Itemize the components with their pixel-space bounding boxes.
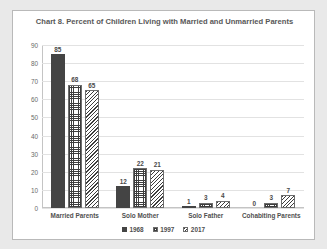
category-axis-label: Solo Father: [188, 212, 223, 219]
category-axis-label: Married Parents: [51, 212, 99, 219]
bar-group: 037Cohabiting Parents: [239, 45, 305, 208]
bar-slot: 3: [199, 45, 213, 208]
bar-slot: 65: [85, 45, 99, 208]
y-axis-tick-label: 70: [31, 78, 38, 85]
y-axis-tick-label: 60: [31, 96, 38, 103]
bar-group-bars: 122221: [108, 45, 174, 208]
legend-item[interactable]: 1997: [153, 226, 175, 233]
bar[interactable]: [264, 203, 278, 208]
bar-slot: 21: [150, 45, 164, 208]
bar-group-bars: 856865: [42, 45, 108, 208]
y-axis-tick-label: 10: [31, 186, 38, 193]
bar-value-label: 3: [269, 194, 273, 201]
bar-slot: 0: [247, 45, 261, 208]
y-axis-tick-label: 90: [31, 42, 38, 49]
bar-slot: 85: [51, 45, 65, 208]
category-axis-label: Cohabiting Parents: [242, 212, 301, 219]
legend-swatch-icon: [122, 227, 127, 232]
bar-slot: 68: [68, 45, 82, 208]
bar[interactable]: [150, 170, 164, 208]
legend-swatch-icon: [153, 227, 158, 232]
bar-value-label: 0: [252, 200, 256, 207]
bar-group-bars: 134: [173, 45, 239, 208]
bar-value-label: 3: [204, 194, 208, 201]
bar-value-label: 1: [187, 198, 191, 205]
bar-group: 856865Married Parents: [42, 45, 108, 208]
bar[interactable]: [182, 206, 196, 208]
bar-slot: 1: [182, 45, 196, 208]
y-axis-tick-label: 20: [31, 168, 38, 175]
bar[interactable]: [51, 54, 65, 208]
legend-item[interactable]: 1968: [122, 226, 144, 233]
legend-label: 1997: [160, 226, 174, 233]
bar-value-label: 21: [154, 161, 161, 168]
bar-value-label: 4: [221, 192, 225, 199]
bar-group-bars: 037: [239, 45, 305, 208]
legend-label: 1968: [129, 226, 143, 233]
bar-value-label: 85: [54, 46, 61, 53]
legend-label: 2017: [191, 226, 205, 233]
bar-value-label: 12: [120, 178, 127, 185]
legend-swatch-icon: [183, 227, 188, 232]
plot-area: 9080706050403020100 856865Married Parent…: [42, 45, 304, 208]
bar-value-label: 7: [286, 187, 290, 194]
y-axis-tick-label: 0: [34, 205, 38, 212]
bar-value-label: 65: [88, 82, 95, 89]
chart-title: Chart 8. Percent of Children Living with…: [29, 17, 300, 28]
chart-legend: 196819972017: [13, 226, 314, 233]
bar-group: 122221Solo Mother: [108, 45, 174, 208]
bar[interactable]: [68, 85, 82, 208]
bar[interactable]: [133, 168, 147, 208]
bar[interactable]: [116, 186, 130, 208]
bar-value-label: 68: [71, 76, 78, 83]
legend-item[interactable]: 2017: [183, 226, 205, 233]
bar[interactable]: [199, 203, 213, 208]
bar-slot: 12: [116, 45, 130, 208]
chart-card: Chart 8. Percent of Children Living with…: [12, 10, 315, 240]
y-axis-tick-label: 80: [31, 60, 38, 67]
bar-value-label: 22: [137, 160, 144, 167]
bar-slot: 22: [133, 45, 147, 208]
bar[interactable]: [281, 195, 295, 208]
y-axis-tick-label: 40: [31, 132, 38, 139]
bar-slot: 4: [216, 45, 230, 208]
y-axis-tick-label: 30: [31, 150, 38, 157]
gridline: [42, 208, 304, 209]
category-axis-label: Solo Mother: [122, 212, 159, 219]
bar-group: 134Solo Father: [173, 45, 239, 208]
bar[interactable]: [85, 90, 99, 208]
bar-slot: 3: [264, 45, 278, 208]
bar[interactable]: [216, 201, 230, 208]
y-axis-tick-label: 50: [31, 114, 38, 121]
bar-slot: 7: [281, 45, 295, 208]
